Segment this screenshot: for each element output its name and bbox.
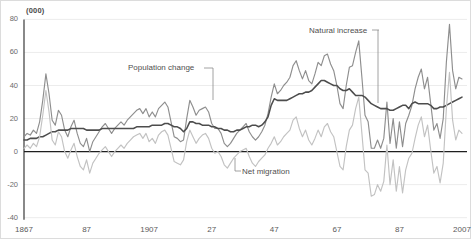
y-axis-tick--20: -20 — [2, 180, 18, 189]
annotation-label-net-migration: Net migration — [242, 167, 290, 176]
series-line-natural-increase — [24, 81, 462, 140]
x-axis-tick-1947: 47 — [252, 225, 296, 234]
y-axis-tick-60: 60 — [2, 47, 18, 56]
x-axis-tick-1987: 87 — [377, 225, 421, 234]
gridlines — [24, 19, 467, 217]
x-axis-tick-1907: 1907 — [127, 225, 171, 234]
chart-canvas — [1, 1, 472, 240]
y-axis-tick-0: 0 — [2, 147, 18, 156]
series-line-population-change — [24, 24, 462, 151]
y-axis-tick-80: 80 — [2, 14, 18, 23]
x-axis-tick-1927: 27 — [190, 225, 234, 234]
x-axis-tick-1867: 1867 — [2, 225, 46, 234]
axis-lines — [24, 19, 467, 219]
y-axis-tick--40: -40 — [2, 213, 18, 222]
annotation-label-population-change: Population change — [128, 63, 194, 72]
annotation-label-natural-increase: Natural increase — [309, 26, 367, 35]
series-line-net-migration — [24, 72, 462, 196]
x-axis-tick-1887: 87 — [65, 225, 109, 234]
y-axis-tick-40: 40 — [2, 81, 18, 90]
x-axis-tick-2007: 2007 — [440, 225, 476, 234]
y-axis-tick-20: 20 — [2, 114, 18, 123]
x-axis-tick-1967: 67 — [315, 225, 359, 234]
annotation-leader-lines — [204, 30, 379, 171]
